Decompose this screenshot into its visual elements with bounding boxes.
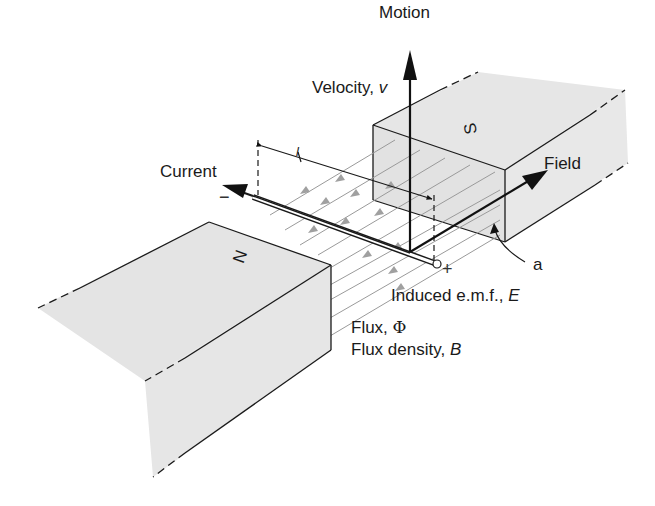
s-pole-magnet <box>373 72 628 242</box>
n-pole-magnet <box>38 222 331 477</box>
emf-symbol: E <box>508 286 519 305</box>
velocity-label-text: Velocity, <box>312 78 379 97</box>
flux-label-text: Flux, <box>351 318 393 337</box>
emf-label-text: Induced e.m.f., <box>391 286 508 305</box>
conductor-end <box>433 260 441 268</box>
length-symbol: l <box>296 145 299 158</box>
field-label: Field <box>544 155 581 172</box>
flux-symbol: Φ <box>393 317 407 337</box>
area-label: a <box>533 256 542 273</box>
flux-density-label: Flux density, B <box>351 341 461 358</box>
emf-label: Induced e.m.f., E <box>391 287 520 304</box>
motion-label: Motion <box>379 4 430 21</box>
flux-density-label-text: Flux density, <box>351 340 450 359</box>
plus-terminal: + <box>442 260 453 278</box>
velocity-symbol: v <box>379 78 388 97</box>
minus-terminal: − <box>219 188 230 206</box>
flux-density-symbol: B <box>450 340 461 359</box>
velocity-label: Velocity, v <box>312 79 387 96</box>
current-label: Current <box>160 163 217 180</box>
induction-diagram <box>0 0 655 506</box>
flux-label: Flux, Φ <box>351 319 407 336</box>
